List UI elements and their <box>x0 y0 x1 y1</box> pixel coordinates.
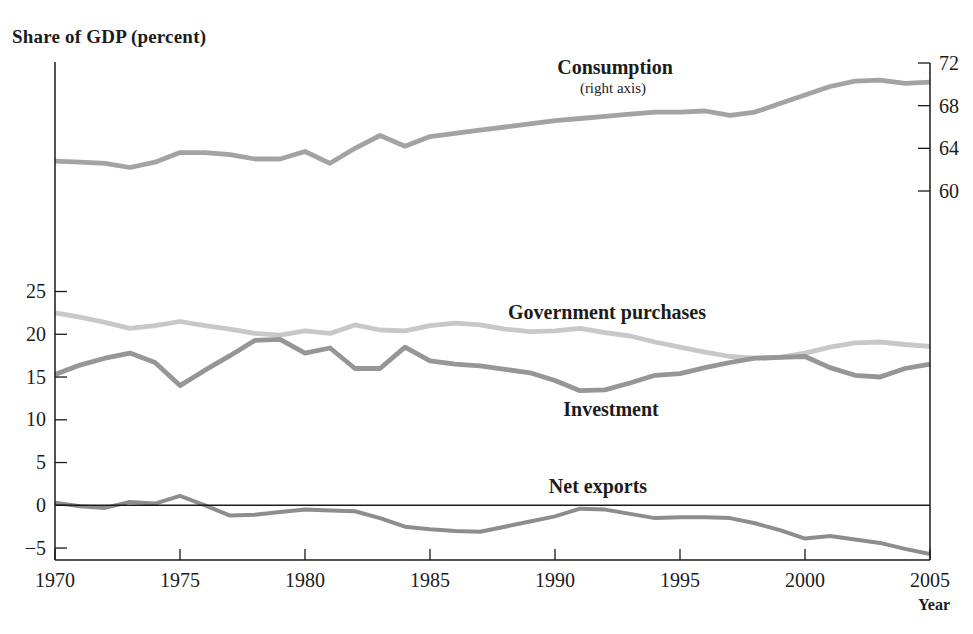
net-exports-series-label: Net exports <box>549 475 647 498</box>
x-tick-label: 2005 <box>910 569 950 591</box>
right-tick-label: 60 <box>939 180 959 202</box>
right-axis-note: (right axis) <box>580 80 646 97</box>
x-tick-label: 1970 <box>35 569 75 591</box>
x-tick-label: 1980 <box>285 569 325 591</box>
consumption-series-label: Consumption <box>557 56 673 79</box>
investment-line <box>55 339 930 390</box>
left-tick-label: 5 <box>36 451 46 473</box>
right-tick-label: 72 <box>939 52 959 74</box>
left-tick-label: 20 <box>26 323 46 345</box>
government-line <box>55 313 930 358</box>
government-purchases-series-label: Government purchases <box>508 301 706 324</box>
x-axis-title: Year <box>918 596 950 614</box>
investment-series-label: Investment <box>563 398 659 421</box>
right-tick-label: 68 <box>939 95 959 117</box>
x-tick-label: 1995 <box>660 569 700 591</box>
gdp-shares-line-chart: 2520151050−57268646019701975198019851990… <box>0 0 973 634</box>
left-tick-label: 10 <box>26 408 46 430</box>
chart-title: Share of GDP (percent) <box>12 26 206 48</box>
left-tick-label: 25 <box>26 280 46 302</box>
tick-marks <box>55 63 930 560</box>
x-tick-label: 1985 <box>410 569 450 591</box>
axes <box>55 62 930 560</box>
left-tick-label: −5 <box>25 537 46 559</box>
left-tick-label: 0 <box>36 494 46 516</box>
consumption-line <box>55 80 930 167</box>
x-tick-label: 1990 <box>535 569 575 591</box>
tick-labels: 2520151050−57268646019701975198019851990… <box>25 52 959 591</box>
x-tick-label: 2000 <box>785 569 825 591</box>
left-tick-label: 15 <box>26 366 46 388</box>
right-tick-label: 64 <box>939 137 959 159</box>
x-tick-label: 1975 <box>160 569 200 591</box>
